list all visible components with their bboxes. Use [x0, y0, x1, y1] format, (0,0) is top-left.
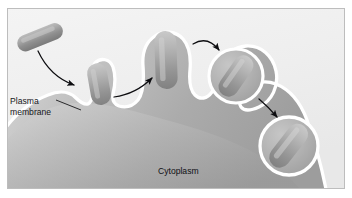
stage-5-free-phagosome [260, 117, 318, 175]
stage-3-phagocytic-cup [154, 31, 178, 90]
stage-4-closing-vacuole [209, 49, 263, 103]
phagocytosis-figure: Plasma membrane Cytoplasm [0, 0, 352, 198]
phagocytosis-diagram: Plasma membrane Cytoplasm [0, 0, 352, 198]
plasma-membrane-label-line1: Plasma [10, 96, 39, 106]
plasma-membrane-label-line2: membrane [10, 107, 51, 117]
bacterium-body [154, 31, 178, 90]
cytoplasm-label: Cytoplasm [158, 166, 199, 176]
